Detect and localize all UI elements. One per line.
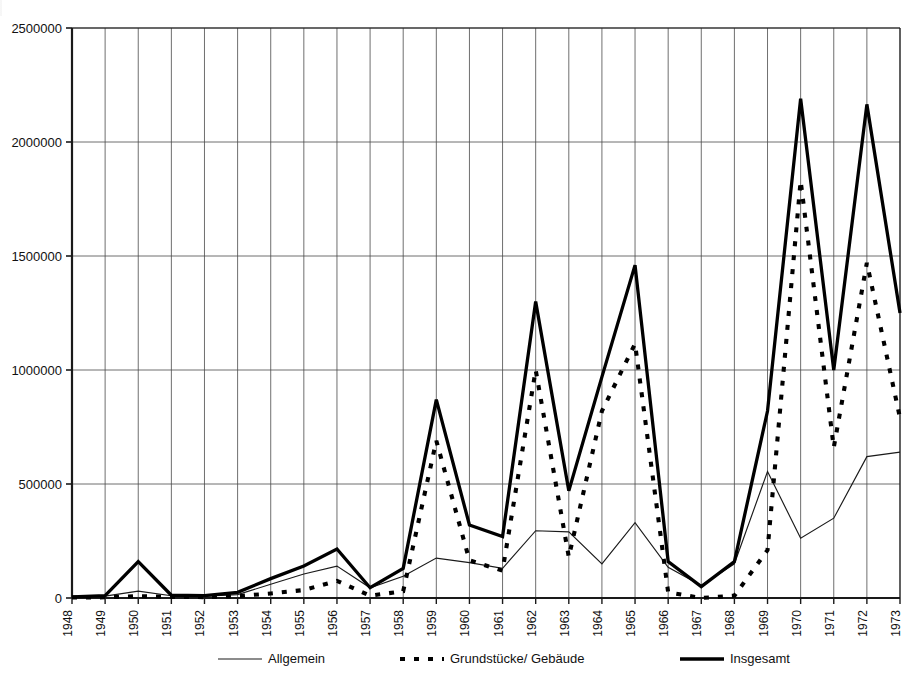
x-axis-tick-label: 1969 <box>757 610 771 637</box>
y-axis-tick-label: 1500000 <box>11 249 62 264</box>
x-axis-tick-label: 1950 <box>127 610 141 637</box>
x-axis-tick-label: 1962 <box>525 610 539 637</box>
chart-container: 05000001000000150000020000002500000 1948… <box>0 0 924 687</box>
plot-axes <box>72 28 900 598</box>
x-axis-tick-label: 1963 <box>558 610 572 637</box>
x-axis-tick-labels: 1948194919501951195219531954195519561957… <box>61 610 903 637</box>
y-axis-tick-label: 0 <box>55 591 62 606</box>
x-axis-tick-label: 1967 <box>690 610 704 637</box>
y-axis-tick-label: 500000 <box>19 477 62 492</box>
y-axis-tick-labels: 05000001000000150000020000002500000 <box>11 21 72 606</box>
legend-label-1: Allgemein <box>268 651 325 666</box>
line-chart: 05000001000000150000020000002500000 1948… <box>0 0 924 687</box>
x-axis-tick-label: 1968 <box>723 610 737 637</box>
x-axis-tick-label: 1956 <box>326 610 340 637</box>
x-axis-tick-label: 1951 <box>160 610 174 637</box>
legend-label-2: Grundstücke/ Gebäude <box>450 651 584 666</box>
x-axis-tick-label: 1949 <box>94 610 108 637</box>
x-axis-tick-label: 1959 <box>425 610 439 637</box>
x-axis-tick-label: 1952 <box>193 610 207 637</box>
x-axis-tick-label: 1970 <box>790 610 804 637</box>
x-axis-tick-label: 1953 <box>227 610 241 637</box>
x-axis-tick-label: 1954 <box>260 610 274 637</box>
x-axis-tick-label: 1971 <box>823 610 837 637</box>
y-axis-tick-label: 2500000 <box>11 21 62 36</box>
data-series-group <box>72 99 900 598</box>
series-line-insgesamt <box>72 99 900 597</box>
grid-lines <box>72 28 900 598</box>
x-axis-tick-label: 1972 <box>856 610 870 637</box>
y-axis-tick-label: 2000000 <box>11 135 62 150</box>
x-axis-tick-label: 1965 <box>624 610 638 637</box>
chart-legend: AllgemeinGrundstücke/ GebäudeInsgesamt <box>218 651 790 666</box>
series-line-grundst-cke-geb-ude <box>72 181 900 598</box>
x-axis-tick-label: 1948 <box>61 610 75 637</box>
x-axis-tick-label: 1973 <box>889 610 903 637</box>
x-axis-tick-label: 1955 <box>293 610 307 637</box>
x-axis-tick-label: 1966 <box>657 610 671 637</box>
y-axis-tick-label: 1000000 <box>11 363 62 378</box>
x-axis-tick-label: 1957 <box>359 610 373 637</box>
x-axis-tick-label: 1964 <box>591 610 605 637</box>
series-line-allgemein <box>72 452 900 597</box>
x-axis-tick-label: 1960 <box>458 610 472 637</box>
x-axis-tick-label: 1961 <box>492 610 506 637</box>
legend-label-3: Insgesamt <box>730 651 790 666</box>
x-axis-tick-label: 1958 <box>392 610 406 637</box>
